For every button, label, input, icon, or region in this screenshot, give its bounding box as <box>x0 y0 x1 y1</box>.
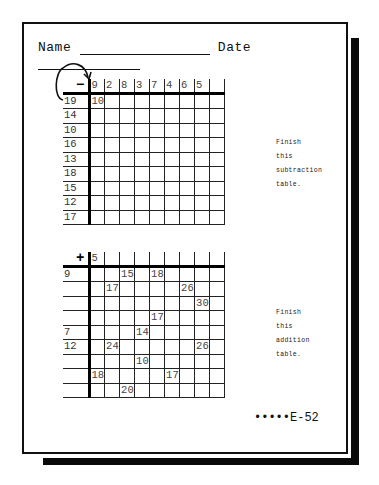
answer-cell[interactable] <box>165 354 180 369</box>
answer-cell[interactable] <box>195 311 210 326</box>
answer-cell[interactable] <box>105 167 120 182</box>
answer-cell[interactable] <box>150 369 165 384</box>
answer-cell[interactable] <box>120 296 135 311</box>
answer-cell[interactable] <box>165 267 180 282</box>
answer-cell[interactable] <box>120 354 135 369</box>
answer-cell[interactable] <box>150 196 165 211</box>
answer-cell[interactable] <box>120 369 135 384</box>
answer-cell[interactable] <box>210 109 225 124</box>
answer-cell[interactable] <box>165 196 180 211</box>
answer-cell[interactable] <box>195 196 210 211</box>
answer-cell[interactable] <box>135 210 150 225</box>
answer-cell[interactable] <box>89 167 105 182</box>
answer-cell[interactable] <box>165 311 180 326</box>
answer-cell[interactable] <box>120 325 135 340</box>
answer-cell[interactable] <box>165 282 180 297</box>
answer-cell[interactable] <box>180 325 195 340</box>
answer-cell[interactable] <box>150 210 165 225</box>
answer-cell[interactable] <box>195 267 210 282</box>
answer-cell[interactable] <box>135 369 150 384</box>
answer-cell[interactable] <box>180 354 195 369</box>
answer-cell[interactable] <box>135 196 150 211</box>
answer-cell[interactable] <box>135 123 150 138</box>
answer-cell[interactable] <box>135 383 150 398</box>
answer-cell[interactable] <box>210 196 225 211</box>
answer-cell[interactable] <box>195 109 210 124</box>
answer-cell[interactable] <box>105 109 120 124</box>
answer-cell[interactable]: 26 <box>195 340 210 355</box>
answer-cell[interactable] <box>105 311 120 326</box>
answer-cell[interactable] <box>135 94 150 109</box>
answer-cell[interactable] <box>150 354 165 369</box>
answer-cell[interactable] <box>105 152 120 167</box>
answer-cell[interactable] <box>120 210 135 225</box>
answer-cell[interactable] <box>165 210 180 225</box>
answer-cell[interactable] <box>89 267 105 282</box>
answer-cell[interactable] <box>135 340 150 355</box>
answer-cell[interactable] <box>89 196 105 211</box>
answer-cell[interactable] <box>180 340 195 355</box>
answer-cell[interactable] <box>210 383 225 398</box>
answer-cell[interactable] <box>105 123 120 138</box>
answer-cell[interactable]: 18 <box>150 267 165 282</box>
answer-cell[interactable]: 14 <box>135 325 150 340</box>
answer-cell[interactable] <box>150 152 165 167</box>
answer-cell[interactable] <box>165 296 180 311</box>
answer-cell[interactable] <box>165 152 180 167</box>
answer-cell[interactable] <box>180 138 195 153</box>
answer-cell[interactable] <box>120 109 135 124</box>
answer-cell[interactable] <box>195 123 210 138</box>
answer-cell[interactable] <box>150 123 165 138</box>
answer-cell[interactable] <box>89 325 105 340</box>
answer-cell[interactable] <box>89 181 105 196</box>
answer-cell[interactable]: 18 <box>89 369 105 384</box>
answer-cell[interactable] <box>195 282 210 297</box>
answer-cell[interactable] <box>135 267 150 282</box>
answer-cell[interactable] <box>165 94 180 109</box>
answer-cell[interactable] <box>195 210 210 225</box>
answer-cell[interactable] <box>180 296 195 311</box>
answer-cell[interactable] <box>150 383 165 398</box>
answer-cell[interactable] <box>210 181 225 196</box>
answer-cell[interactable]: 20 <box>120 383 135 398</box>
answer-cell[interactable] <box>180 181 195 196</box>
answer-cell[interactable] <box>210 369 225 384</box>
answer-cell[interactable] <box>135 311 150 326</box>
answer-cell[interactable] <box>210 167 225 182</box>
answer-cell[interactable] <box>89 383 105 398</box>
answer-cell[interactable] <box>89 311 105 326</box>
answer-cell[interactable] <box>105 181 120 196</box>
answer-cell[interactable] <box>195 383 210 398</box>
answer-cell[interactable] <box>105 325 120 340</box>
answer-cell[interactable] <box>210 296 225 311</box>
answer-cell[interactable] <box>180 94 195 109</box>
answer-cell[interactable] <box>210 311 225 326</box>
answer-cell[interactable] <box>195 181 210 196</box>
answer-cell[interactable] <box>180 311 195 326</box>
answer-cell[interactable] <box>195 138 210 153</box>
answer-cell[interactable]: 30 <box>195 296 210 311</box>
answer-cell[interactable]: 17 <box>165 369 180 384</box>
answer-cell[interactable] <box>180 109 195 124</box>
answer-cell[interactable] <box>180 123 195 138</box>
answer-cell[interactable] <box>105 94 120 109</box>
answer-cell[interactable] <box>180 152 195 167</box>
answer-cell[interactable]: 17 <box>105 282 120 297</box>
answer-cell[interactable] <box>135 181 150 196</box>
answer-cell[interactable]: 10 <box>135 354 150 369</box>
answer-cell[interactable] <box>180 210 195 225</box>
answer-cell[interactable] <box>105 369 120 384</box>
answer-cell[interactable] <box>150 282 165 297</box>
answer-cell[interactable] <box>195 369 210 384</box>
answer-cell[interactable] <box>150 181 165 196</box>
answer-cell[interactable] <box>89 152 105 167</box>
answer-cell[interactable]: 24 <box>105 340 120 355</box>
answer-cell[interactable]: 15 <box>120 267 135 282</box>
answer-cell[interactable] <box>89 210 105 225</box>
answer-cell[interactable] <box>120 340 135 355</box>
answer-cell[interactable] <box>165 340 180 355</box>
answer-cell[interactable] <box>120 196 135 211</box>
answer-cell[interactable] <box>180 383 195 398</box>
answer-cell[interactable] <box>210 267 225 282</box>
answer-cell[interactable] <box>210 282 225 297</box>
